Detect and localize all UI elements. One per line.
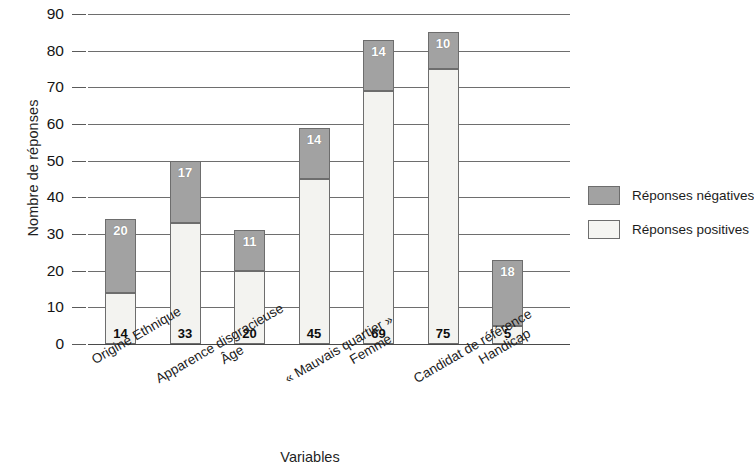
bar-segment-positive: 45: [299, 179, 330, 344]
y-axis-tick-mark: [72, 344, 86, 345]
legend-label: Réponses positives: [632, 222, 749, 237]
bar-segment-negative: 14: [363, 40, 394, 91]
y-axis-tick-mark: [72, 51, 86, 52]
y-axis-tick-label: 50: [22, 153, 64, 169]
bar-value-label-negative: 11: [235, 235, 264, 248]
bar-segment-negative: 10: [428, 32, 459, 69]
y-axis-tick-label: 60: [22, 116, 64, 132]
gridline: [88, 87, 570, 88]
legend-swatch-pos: [588, 220, 620, 239]
bar-group: 1420: [105, 219, 136, 344]
y-axis-tick-label: 20: [22, 263, 64, 279]
bar-segment-negative: 14: [299, 128, 330, 179]
bar-value-label-negative: 18: [493, 265, 522, 278]
x-axis-title: Variables: [0, 449, 620, 465]
y-axis-tick-mark: [72, 14, 86, 15]
y-axis-tick-mark: [72, 124, 86, 125]
legend-label: Réponses négatives: [632, 188, 754, 203]
gridline: [88, 51, 570, 52]
bar-value-label-negative: 17: [171, 166, 200, 179]
legend-swatch-neg: [588, 186, 620, 205]
y-axis-tick-mark: [72, 87, 86, 88]
chart-legend: Réponses négativesRéponses positives: [588, 180, 748, 248]
bar-segment-positive: 69: [363, 91, 394, 344]
bar-segment-positive: 33: [170, 223, 201, 344]
bar-value-label-negative: 20: [106, 224, 135, 237]
bar-group: 4514: [299, 128, 330, 344]
bar-segment-positive: 75: [428, 69, 459, 344]
y-axis-tick-mark: [72, 161, 86, 162]
bar-segment-negative: 11: [234, 230, 265, 270]
y-axis-tick-label: 0: [22, 336, 64, 352]
bar-value-label-negative: 10: [429, 37, 458, 50]
bar-segment-negative: 17: [170, 161, 201, 223]
y-axis-tick-mark: [72, 307, 86, 308]
y-axis-tick-mark: [72, 197, 86, 198]
legend-item: Réponses positives: [588, 214, 748, 244]
plot-area: 142033172011451469147510518: [88, 14, 570, 344]
y-axis-tick-label: 90: [22, 6, 64, 22]
y-axis-tick-label: 30: [22, 226, 64, 242]
gridline: [88, 14, 570, 15]
y-axis-tick-label: 40: [22, 189, 64, 205]
y-axis-tick-mark: [72, 271, 86, 272]
bar-group: 7510: [428, 32, 459, 344]
y-axis-tick-mark: [72, 234, 86, 235]
bar-value-label-positive: 75: [429, 327, 458, 340]
bar-value-label-positive: 45: [300, 327, 329, 340]
y-axis-tick-label: 70: [22, 79, 64, 95]
y-axis-tick-label: 10: [22, 299, 64, 315]
bar-value-label-positive: 33: [171, 327, 200, 340]
bar-segment-negative: 20: [105, 219, 136, 292]
gridline: [88, 124, 570, 125]
bar-value-label-negative: 14: [364, 45, 393, 58]
legend-item: Réponses négatives: [588, 180, 748, 210]
bar-group: 6914: [363, 40, 394, 344]
y-axis-tick-label: 80: [22, 43, 64, 59]
bar-value-label-negative: 14: [300, 133, 329, 146]
